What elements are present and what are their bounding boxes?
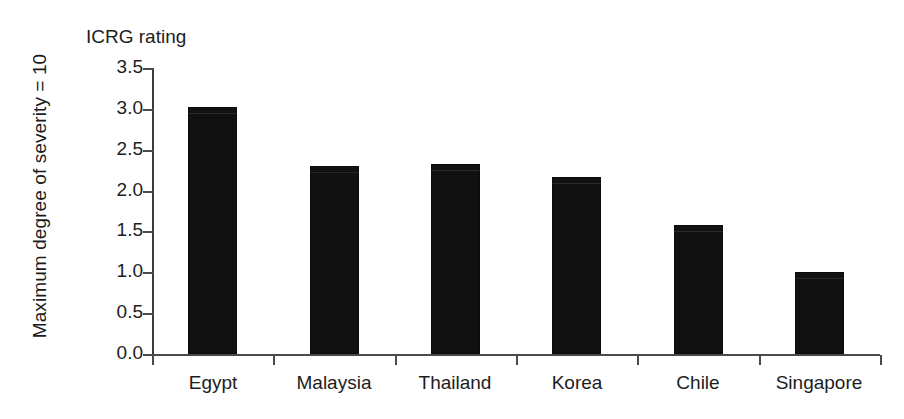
- category-label-singapore: Singapore: [776, 372, 863, 394]
- category-label-chile: Chile: [676, 372, 719, 394]
- bar-singapore: [795, 272, 844, 354]
- y-axis-tick-label: 1.5: [117, 219, 143, 241]
- chart-title: ICRG rating: [86, 26, 186, 48]
- y-axis-tick-mark: [143, 313, 154, 315]
- x-axis-tick-mark: [152, 355, 154, 365]
- x-axis-tick-mark: [880, 355, 882, 365]
- y-axis-tick-mark: [143, 68, 154, 70]
- y-axis-tick-mark: [143, 150, 154, 152]
- y-axis-tick-row: 0.5: [152, 313, 153, 315]
- bar-thailand: [431, 164, 480, 354]
- x-axis-tick-mark: [637, 355, 639, 365]
- bar-malaysia: [310, 166, 359, 354]
- chart-figure: Maximum degree of severity = 10 ICRG rat…: [0, 0, 904, 419]
- plot-area: 0.00.51.01.52.02.53.03.5 EgyptMalaysiaTh…: [152, 68, 880, 355]
- y-axis-tick-label: 0.0: [117, 342, 143, 364]
- y-axis-label: Maximum degree of severity = 10: [29, 36, 51, 356]
- bar-egypt: [188, 107, 237, 354]
- y-axis-tick-label: 3.5: [117, 56, 143, 78]
- y-axis-tick-row: 2.5: [152, 150, 153, 152]
- y-axis-tick-label: 1.0: [117, 260, 143, 282]
- y-axis-tick-row: 1.0: [152, 272, 153, 274]
- category-label-egypt: Egypt: [189, 372, 238, 394]
- bar-chile: [674, 225, 723, 354]
- y-axis-tick-label: 3.0: [117, 97, 143, 119]
- y-axis-label-container: Maximum degree of severity = 10: [0, 0, 70, 419]
- bar-korea: [552, 177, 601, 354]
- x-axis-tick-mark: [273, 355, 275, 365]
- x-axis-tick-mark: [395, 355, 397, 365]
- y-axis-tick-mark: [143, 272, 154, 274]
- y-axis-tick-row: 3.0: [152, 109, 153, 111]
- y-axis-tick-label: 2.5: [117, 138, 143, 160]
- category-label-malaysia: Malaysia: [297, 372, 372, 394]
- x-axis-tick-mark: [759, 355, 761, 365]
- y-axis-tick-mark: [143, 109, 154, 111]
- y-axis-tick-label: 2.0: [117, 179, 143, 201]
- x-axis-tick-mark: [516, 355, 518, 365]
- y-axis-tick-label: 0.5: [117, 301, 143, 323]
- y-axis-tick-mark: [143, 231, 154, 233]
- category-label-thailand: Thailand: [419, 372, 492, 394]
- y-axis-tick-row: 2.0: [152, 191, 153, 193]
- y-axis-tick-row: 3.5: [152, 68, 153, 70]
- y-axis-tick-row: 1.5: [152, 231, 153, 233]
- category-label-korea: Korea: [552, 372, 603, 394]
- y-axis-tick-mark: [143, 191, 154, 193]
